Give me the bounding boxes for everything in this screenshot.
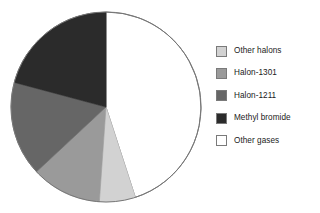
legend-label-other-halons: Other halons (234, 47, 281, 55)
pie-svg (0, 0, 212, 213)
legend-label-methyl-bromide: Methyl bromide (234, 114, 291, 122)
legend-label-other-gases: Other gases (234, 137, 279, 145)
legend-swatch-other-halons (216, 46, 227, 57)
chart-legend: Other halons Halon-1301 Halon-1211 Methy… (216, 40, 320, 152)
legend-swatch-methyl-bromide (216, 113, 227, 124)
legend-swatch-other-gases (216, 135, 227, 146)
legend-swatch-halon-1211 (216, 90, 227, 101)
pie-slice-group (11, 12, 201, 202)
legend-item-other-halons[interactable]: Other halons (216, 40, 320, 62)
legend-item-other-gases[interactable]: Other gases (216, 130, 320, 152)
legend-item-halon-1211[interactable]: Halon-1211 (216, 85, 320, 107)
pie-plot-area (0, 0, 212, 213)
legend-item-halon-1301[interactable]: Halon-1301 (216, 62, 320, 84)
legend-label-halon-1301: Halon-1301 (234, 69, 277, 77)
pie-chart-figure: Other halons Halon-1301 Halon-1211 Methy… (0, 0, 320, 213)
legend-swatch-halon-1301 (216, 68, 227, 79)
legend-item-methyl-bromide[interactable]: Methyl bromide (216, 107, 320, 129)
legend-label-halon-1211: Halon-1211 (234, 92, 276, 100)
